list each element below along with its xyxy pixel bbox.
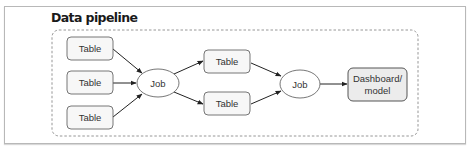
node-label-line1: Dashboard/ <box>353 73 402 84</box>
node-table-2: Table <box>67 71 113 94</box>
node-table-3: Table <box>67 106 113 129</box>
node-label: Job <box>150 78 165 89</box>
edge-table4-job2 <box>251 63 281 76</box>
node-label: Table <box>216 56 239 67</box>
edge-table3-job1 <box>113 94 142 117</box>
node-output-dashboard: Dashboard/ model <box>348 68 407 101</box>
node-label-line2: model <box>365 85 391 96</box>
node-label: Job <box>292 79 307 90</box>
edge-table1-job1 <box>113 49 142 73</box>
node-label: Table <box>79 112 102 123</box>
edge-table5-job2 <box>251 91 281 104</box>
node-job-1: Job <box>137 69 179 97</box>
node-table-1: Table <box>67 37 113 60</box>
pipeline-diagram: Table Table Table Job Table Table Job Da… <box>0 0 470 149</box>
node-table-5: Table <box>204 92 250 115</box>
node-table-4: Table <box>204 50 250 73</box>
node-label: Table <box>216 98 239 109</box>
edge-job1-table5 <box>174 92 203 104</box>
node-label: Table <box>79 43 102 54</box>
node-job-2: Job <box>280 70 320 98</box>
edge-job1-table4 <box>174 61 203 74</box>
node-label: Table <box>79 77 102 88</box>
